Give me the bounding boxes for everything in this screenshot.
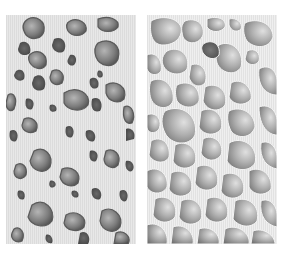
porous-bone-panel	[147, 15, 277, 244]
porous-bone-illustration	[147, 15, 277, 244]
dense-bone-panel	[6, 15, 136, 244]
dense-bone-illustration	[6, 15, 136, 244]
